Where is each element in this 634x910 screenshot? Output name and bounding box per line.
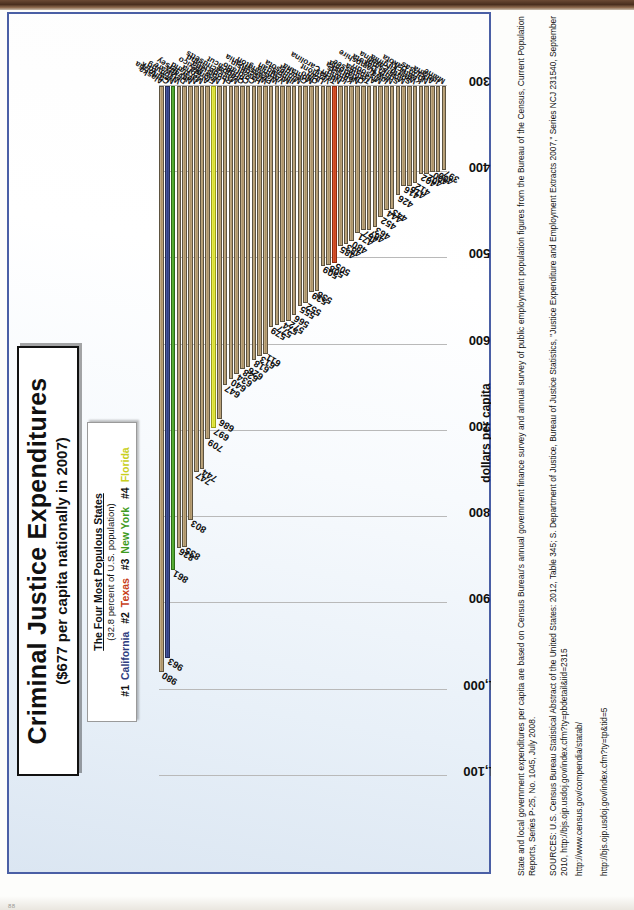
bar-row <box>217 86 222 776</box>
bar-row <box>396 86 401 776</box>
bar-new-mexico <box>217 86 222 419</box>
bar-rhode-island <box>229 86 234 379</box>
axis-tick-label: 900 <box>469 591 491 606</box>
bar-row <box>378 86 383 776</box>
bar-maryland <box>200 86 205 469</box>
bar-row <box>263 86 268 776</box>
legend-subheading: (32.8 percent of U.S. population) <box>105 429 116 715</box>
bar-row <box>361 86 366 776</box>
bar-row <box>303 86 308 776</box>
bar-california <box>165 86 170 658</box>
bar-massachusetts <box>234 86 239 374</box>
axis-tick-label: 300 <box>469 74 491 89</box>
bar-row <box>430 86 435 776</box>
book-gutter-shadow <box>0 0 634 10</box>
bar-new-york <box>171 86 176 570</box>
bar-row <box>367 86 372 776</box>
bar-row <box>246 86 251 776</box>
bar-minnesota <box>298 86 303 306</box>
bar-row <box>223 86 228 776</box>
legend-rank-4: #4 <box>119 484 131 499</box>
chart-canvas: Criminal Justice Expenditures ($677 per … <box>7 12 491 874</box>
legend-heading: The Four Most Populous States <box>92 429 104 715</box>
bar-row <box>442 86 447 776</box>
bar-row <box>315 86 320 776</box>
bar-south-carolina <box>407 86 412 186</box>
bar-row <box>292 86 297 776</box>
bar-arizona <box>205 86 210 439</box>
bar-row <box>419 86 424 776</box>
bar-row <box>182 86 187 776</box>
bar-row <box>269 86 274 776</box>
axis-tick-label: 700 <box>469 419 491 434</box>
bar-kansas <box>349 86 354 241</box>
bar-vermont <box>326 86 331 265</box>
bar-connecticut <box>246 86 251 367</box>
plot-area: dollars per capita 1,1001,00090080070060… <box>159 86 447 776</box>
bar-row <box>200 86 205 776</box>
bar-row <box>338 86 343 776</box>
bar-georgia <box>303 86 308 303</box>
axis-tick-label: 400 <box>469 160 491 175</box>
bar-illinois <box>292 86 297 315</box>
bar-idaho <box>344 86 349 244</box>
bar-texas <box>332 86 337 263</box>
bar-row <box>240 86 245 776</box>
legend-rank-3: #3 <box>119 556 131 571</box>
bar-row <box>298 86 303 776</box>
bar-hawaii <box>257 86 262 356</box>
axis-tick-label: 600 <box>469 332 491 347</box>
bar-oklahoma <box>361 86 366 230</box>
figure-container: Criminal Justice Expenditures ($677 per … <box>7 12 491 874</box>
axis-tick-label: 800 <box>469 505 491 520</box>
bar-michigan <box>286 86 291 321</box>
source-url-2[interactable]: http://bjs.ojp.usdoj.gov/index.cfm?ty=tp… <box>599 576 610 876</box>
bar-row <box>349 86 354 776</box>
bar-colorado <box>252 86 257 360</box>
bar-washington <box>275 86 280 325</box>
page-subtitle: ($677 per capita nationally in 2007) <box>53 354 70 768</box>
bar-row <box>390 86 395 776</box>
bar-new-hampshire <box>390 86 395 209</box>
bar-delaware <box>182 86 187 547</box>
bar-row <box>355 86 360 776</box>
bar-montana <box>309 86 314 292</box>
bar-tennessee <box>367 86 372 230</box>
bar-row <box>436 86 441 776</box>
bar-row <box>194 86 199 776</box>
bar-row <box>205 86 210 776</box>
bar-mississippi <box>401 86 406 186</box>
source-url-1[interactable]: http://www.census.gov/compendia/statab/ <box>574 576 585 876</box>
bar-row <box>171 86 176 776</box>
bar-alaska <box>159 86 164 673</box>
bar-oregon <box>240 86 245 369</box>
bar-nebraska <box>355 86 360 233</box>
source-notes: State and local government expenditures … <box>516 16 579 876</box>
legend-rank-1: #1 <box>119 682 131 697</box>
bar-row <box>373 86 378 776</box>
bar-south-dakota <box>396 86 401 195</box>
bar-ohio <box>315 86 320 291</box>
axis-tick-label: 1,100 <box>463 764 491 779</box>
bar-row <box>275 86 280 776</box>
bar-wisconsin <box>263 86 268 354</box>
bar-row <box>309 86 314 776</box>
bar-arkansas <box>430 86 435 172</box>
scanned-page: Criminal Justice Expenditures ($677 per … <box>0 0 634 910</box>
bar-wyoming <box>177 86 182 548</box>
legend-state-california: California <box>119 632 131 680</box>
bar-row <box>332 86 337 776</box>
bar-row <box>177 86 182 776</box>
bar-florida <box>211 86 216 428</box>
bar-kentucky <box>419 86 424 174</box>
bar-nevada <box>188 86 193 520</box>
bar-virginia <box>280 86 285 322</box>
bar-row <box>326 86 331 776</box>
bar-row <box>257 86 262 776</box>
bar-new-jersey <box>194 86 199 472</box>
legend-state-new-york: New York <box>119 507 131 554</box>
bar-row <box>321 86 326 776</box>
chart-title-box: Criminal Justice Expenditures ($677 per … <box>17 346 79 776</box>
bar-missouri <box>378 86 383 217</box>
bar-utah <box>321 86 326 266</box>
